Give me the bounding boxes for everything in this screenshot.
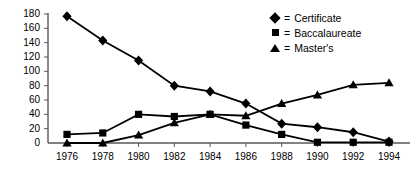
series-master-s bbox=[62, 78, 393, 146]
square-data-point bbox=[63, 131, 70, 138]
diamond-data-point bbox=[313, 122, 322, 132]
square-data-point bbox=[385, 139, 392, 146]
triangle-marker-icon bbox=[269, 44, 281, 52]
series-line bbox=[67, 114, 389, 142]
diamond-data-point bbox=[277, 119, 286, 129]
legend-item-certificate: = Certificate bbox=[269, 10, 361, 25]
square-data-point bbox=[242, 121, 249, 128]
diamond-data-point bbox=[134, 56, 143, 66]
diamond-data-point bbox=[98, 36, 107, 46]
series-line bbox=[67, 83, 389, 143]
diamond-data-point bbox=[349, 127, 358, 137]
legend-item-masters: = Master's bbox=[269, 40, 361, 55]
legend-label-baccalaureate: Baccalaureate bbox=[294, 27, 361, 39]
diamond-data-point bbox=[241, 99, 250, 109]
diamond-data-point bbox=[170, 81, 179, 91]
legend-equals-sign: = bbox=[281, 42, 294, 54]
square-data-point bbox=[135, 111, 142, 118]
diamond-data-point bbox=[206, 86, 215, 96]
legend-equals-sign: = bbox=[281, 27, 294, 39]
diamond-marker-icon bbox=[269, 14, 281, 22]
square-data-point bbox=[350, 139, 357, 146]
square-data-point bbox=[99, 129, 106, 136]
legend-item-baccalaureate: = Baccalaureate bbox=[269, 25, 361, 40]
square-data-point bbox=[314, 139, 321, 146]
diamond-data-point bbox=[62, 11, 71, 21]
chart-legend: = Certificate = Baccalaureate = Master's bbox=[269, 10, 361, 55]
legend-equals-sign: = bbox=[281, 12, 294, 24]
legend-label-certificate: Certificate bbox=[294, 12, 341, 24]
square-marker-icon bbox=[269, 29, 281, 36]
line-chart: 020406080100120140160180 197619781980198… bbox=[0, 0, 420, 176]
legend-label-masters: Master's bbox=[294, 42, 333, 54]
square-data-point bbox=[278, 131, 285, 138]
